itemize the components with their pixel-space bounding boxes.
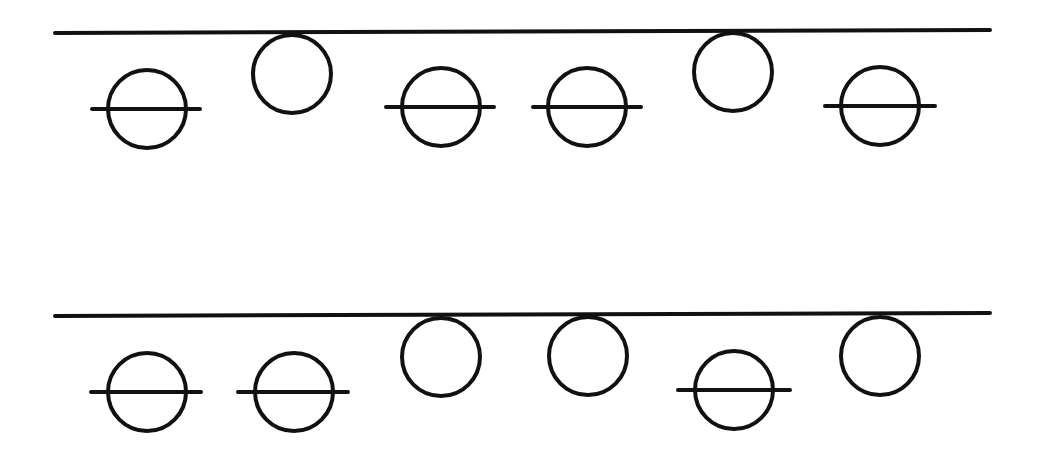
circle-shape [841, 317, 919, 395]
hanging-circle-icon [549, 317, 627, 395]
circle-shape [694, 33, 772, 111]
diagram-canvas [0, 0, 1043, 455]
hanging-circle-icon [402, 318, 480, 396]
crossed-circle-icon [533, 68, 641, 146]
crossed-circle-icon [386, 68, 494, 146]
crossed-circle-icon [825, 67, 935, 145]
crossed-circle-icon [238, 353, 348, 431]
hanging-circle-icon [694, 33, 772, 111]
crossed-circle-icon [91, 353, 201, 431]
crossed-circle-icon [678, 351, 790, 429]
circle-shape [549, 317, 627, 395]
baseline-line [55, 30, 990, 33]
hanging-circle-icon [253, 35, 331, 113]
row-2 [55, 313, 990, 431]
hanging-circle-icon [841, 317, 919, 395]
circle-shape [253, 35, 331, 113]
crossed-circle-icon [92, 70, 200, 148]
circle-shape [402, 318, 480, 396]
row-1 [55, 30, 990, 148]
baseline-line [55, 313, 990, 316]
